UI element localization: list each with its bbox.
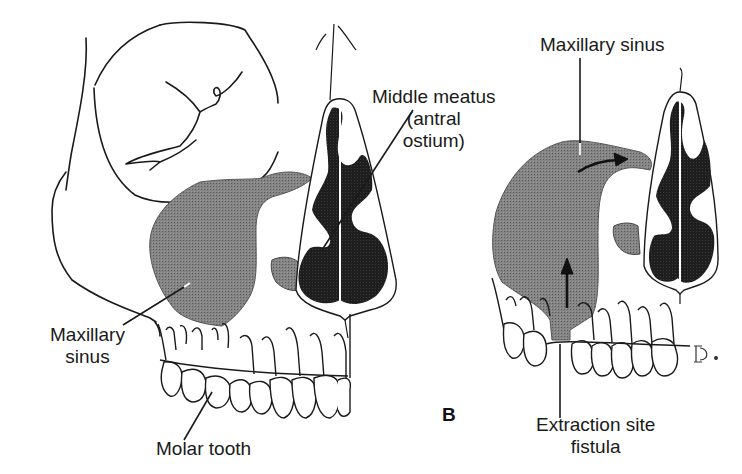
left-upper-teeth [158, 314, 350, 418]
right-nasal-cavity [644, 68, 718, 304]
label-maxillary-sinus-left: Maxillary sinus [50, 324, 125, 368]
molar-2 [181, 369, 206, 402]
label-maxillary-sinus-right: Maxillary sinus [540, 34, 665, 56]
orbit-outline [94, 22, 278, 202]
anatomy-figure: Middle meatus (antral ostium) Maxillary … [0, 0, 742, 474]
left-nasal-cavity [296, 24, 396, 338]
molar-1 [161, 362, 182, 397]
molar-3 [205, 376, 230, 408]
artist-signature [694, 346, 717, 362]
label-extraction-site: Extraction site fistula [536, 414, 655, 458]
illustration [0, 0, 742, 474]
label-molar-tooth: Molar tooth [156, 438, 251, 460]
left-maxillary-sinus [150, 172, 312, 326]
panel-letter: B [442, 404, 456, 426]
label-middle-meatus: Middle meatus (antral ostium) [372, 86, 496, 152]
right-lateral-wall [613, 223, 640, 255]
